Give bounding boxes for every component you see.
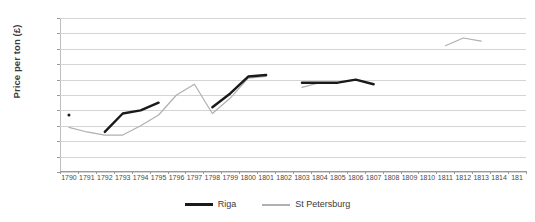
series-line-riga bbox=[302, 80, 374, 85]
x-axis-tick-mark bbox=[508, 171, 509, 174]
legend-item-st-petersburg: St Petersburg bbox=[262, 200, 350, 209]
x-axis-tick-mark bbox=[78, 171, 79, 174]
x-axis-tick-mark bbox=[311, 171, 312, 174]
x-axis-tick-label: 1808 bbox=[384, 174, 400, 181]
legend-item-riga: Riga bbox=[185, 200, 237, 209]
legend-label-st-petersburg: St Petersburg bbox=[295, 200, 350, 209]
x-axis-tick-label: 1799 bbox=[222, 174, 238, 181]
x-axis-tick-label: 1802 bbox=[276, 174, 292, 181]
x-axis-tick-mark bbox=[436, 171, 437, 174]
x-axis-tick-mark bbox=[383, 171, 384, 174]
chart-legend: Riga St Petersburg bbox=[0, 200, 535, 209]
x-axis-tick-mark bbox=[60, 171, 61, 174]
x-axis-tick-mark bbox=[418, 171, 419, 174]
x-axis-tick-label: 1797 bbox=[187, 174, 203, 181]
x-axis-tick-mark bbox=[239, 171, 240, 174]
x-axis-tick-mark bbox=[401, 171, 402, 174]
x-axis-tick-label: 1806 bbox=[348, 174, 364, 181]
x-axis-tick-mark bbox=[454, 171, 455, 174]
x-axis-tick-mark bbox=[185, 171, 186, 174]
x-axis-tick-label: 1805 bbox=[330, 174, 346, 181]
x-axis-tick-mark bbox=[472, 171, 473, 174]
x-axis-tick-label: 1790 bbox=[61, 174, 77, 181]
x-axis-tick-label: 1804 bbox=[312, 174, 328, 181]
x-axis-tick-mark bbox=[526, 171, 527, 174]
x-axis-tick-label: 1809 bbox=[402, 174, 418, 181]
x-axis-tick-mark bbox=[293, 171, 294, 174]
x-axis-tick-mark bbox=[490, 171, 491, 174]
x-axis-tick-mark bbox=[365, 171, 366, 174]
series-line-riga bbox=[212, 75, 266, 107]
data-point-riga bbox=[67, 114, 70, 117]
x-axis-tick-label: 1813 bbox=[473, 174, 489, 181]
x-axis-tick-label: 1803 bbox=[294, 174, 310, 181]
x-axis-tick-label: 1798 bbox=[205, 174, 221, 181]
x-axis-tick-label: 1812 bbox=[455, 174, 471, 181]
riga-line-swatch bbox=[185, 203, 213, 206]
series-layer bbox=[60, 18, 526, 172]
y-axis-title: Price per ton (£) bbox=[11, 2, 22, 122]
price-per-ton-line-chart: Price per ton (£) 0102030405060708090100… bbox=[0, 0, 535, 222]
x-axis-tick-mark bbox=[96, 171, 97, 174]
x-axis-tick-mark bbox=[168, 171, 169, 174]
x-axis-tick-mark bbox=[203, 171, 204, 174]
x-axis-tick-labels: 1790179117921793179417951796179717981799… bbox=[60, 174, 526, 188]
x-axis-tick-label: 181 bbox=[511, 174, 523, 181]
x-axis-tick-label: 1795 bbox=[151, 174, 167, 181]
x-axis-tick-label: 1807 bbox=[366, 174, 382, 181]
x-axis-tick-mark bbox=[150, 171, 151, 174]
x-axis-tick-label: 1792 bbox=[97, 174, 113, 181]
x-axis-tick-mark bbox=[275, 171, 276, 174]
x-axis-tick-mark bbox=[347, 171, 348, 174]
series-line-riga bbox=[105, 103, 159, 132]
st-petersburg-line-swatch bbox=[262, 204, 290, 206]
x-axis-tick-label: 1801 bbox=[258, 174, 274, 181]
x-axis-tick-mark bbox=[221, 171, 222, 174]
x-axis-tick-mark bbox=[132, 171, 133, 174]
x-axis-tick-mark bbox=[257, 171, 258, 174]
x-axis-tick-mark bbox=[114, 171, 115, 174]
x-axis-tick-label: 1800 bbox=[240, 174, 256, 181]
x-axis-tick-label: 1814 bbox=[491, 174, 507, 181]
plot-area: 0102030405060708090100 bbox=[60, 18, 526, 172]
x-axis-tick-label: 1796 bbox=[169, 174, 185, 181]
series-line-st-petersburg bbox=[69, 77, 266, 136]
x-axis-tick-label: 1794 bbox=[133, 174, 149, 181]
x-axis-tick-label: 1793 bbox=[115, 174, 131, 181]
x-axis-tick-mark bbox=[329, 171, 330, 174]
x-axis-tick-label: 1810 bbox=[420, 174, 436, 181]
series-line-st-petersburg bbox=[445, 38, 481, 46]
x-axis-tick-label: 1791 bbox=[79, 174, 95, 181]
x-axis-tick-label: 1811 bbox=[438, 174, 453, 181]
legend-label-riga: Riga bbox=[218, 200, 237, 209]
